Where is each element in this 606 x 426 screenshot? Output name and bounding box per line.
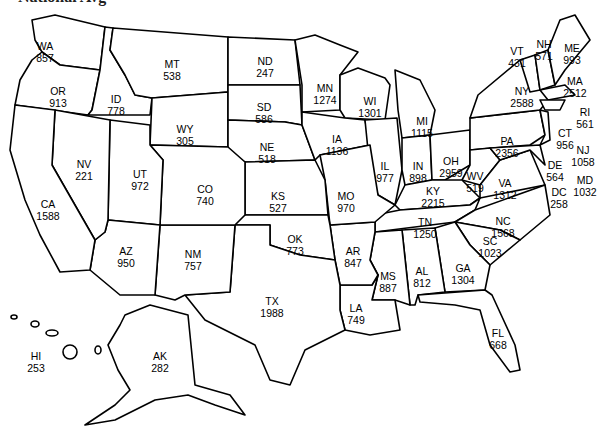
- state-abbr: KY: [421, 185, 444, 197]
- state-abbr: FL: [489, 327, 507, 339]
- state-ct[interactable]: [540, 100, 565, 110]
- state-value: 993: [563, 54, 581, 66]
- state-value: 740: [196, 195, 214, 207]
- state-abbr: MI: [411, 115, 433, 127]
- state-value: 538: [163, 70, 181, 82]
- state-value: 253: [27, 362, 45, 374]
- state-abbr: HI: [27, 350, 45, 362]
- state-label-wi: WI1301: [358, 95, 381, 119]
- state-value: 2588: [510, 97, 533, 109]
- state-abbr: UT: [131, 168, 149, 180]
- state-value: 2215: [421, 197, 444, 209]
- state-label-mo: MO970: [337, 190, 355, 214]
- state-abbr: OR: [49, 85, 67, 97]
- state-label-ks: KS527: [269, 190, 287, 214]
- state-abbr: WA: [36, 40, 54, 52]
- state-label-id: ID778: [107, 93, 125, 117]
- state-value: 812: [413, 277, 431, 289]
- state-label-nd: ND247: [256, 55, 274, 79]
- state-abbr: MS: [379, 270, 397, 282]
- state-label-il: IL977: [376, 160, 394, 184]
- state-label-ri: RI561: [576, 106, 594, 130]
- state-label-oh: OH2959: [439, 155, 462, 179]
- state-label-me: ME993: [563, 42, 581, 66]
- state-value: 1312: [493, 189, 516, 201]
- state-label-ia: IA1136: [326, 133, 349, 157]
- state-abbr: AL: [413, 265, 431, 277]
- state-value: 749: [347, 314, 365, 326]
- state-abbr: ND: [256, 55, 274, 67]
- state-label-al: AL812: [413, 265, 431, 289]
- state-abbr: MO: [337, 190, 355, 202]
- state-label-co: CO740: [196, 183, 214, 207]
- state-abbr: NE: [258, 141, 276, 153]
- state-label-va: VA1312: [493, 177, 516, 201]
- state-abbr: GA: [451, 262, 474, 274]
- state-value: 1988: [260, 307, 283, 319]
- state-abbr: CA: [36, 198, 59, 210]
- state-label-ga: GA1304: [451, 262, 474, 286]
- state-value: 527: [269, 202, 287, 214]
- state-value: 2959: [439, 167, 462, 179]
- state-label-mt: MT538: [163, 58, 181, 82]
- state-label-mi: MI1115: [411, 115, 433, 139]
- state-label-tn: TN1250: [413, 216, 436, 240]
- state-abbr: WV: [466, 170, 484, 182]
- state-abbr: VA: [493, 177, 516, 189]
- state-abbr: AR: [344, 245, 362, 257]
- state-label-ms: MS887: [379, 270, 397, 294]
- state-label-ky: KY2215: [421, 185, 444, 209]
- state-value: 887: [379, 282, 397, 294]
- state-value: 898: [409, 172, 427, 184]
- state-abbr: SC: [478, 235, 501, 247]
- state-abbr: KS: [269, 190, 287, 202]
- state-abbr: IL: [376, 160, 394, 172]
- state-value: 1023: [478, 247, 501, 259]
- state-value: 1250: [413, 228, 436, 240]
- state-abbr: NH: [535, 38, 553, 50]
- state-value: 1301: [358, 107, 381, 119]
- state-value: 258: [550, 198, 568, 210]
- state-abbr: SD: [255, 101, 273, 113]
- state-abbr: TX: [260, 295, 283, 307]
- state-abbr: ID: [107, 93, 125, 105]
- state-label-mn: MN1274: [313, 82, 336, 106]
- state-value: 1115: [411, 127, 433, 139]
- state-label-tx: TX1988: [260, 295, 283, 319]
- state-value: 518: [258, 153, 276, 165]
- state-label-vt: VT431: [508, 45, 526, 69]
- state-label-or: OR913: [49, 85, 67, 109]
- state-label-ak: AK282: [151, 350, 169, 374]
- state-value: 773: [286, 245, 304, 257]
- state-label-la: LA749: [347, 302, 365, 326]
- state-abbr: ME: [563, 42, 581, 54]
- state-label-ok: OK773: [286, 233, 304, 257]
- state-value: 564: [546, 171, 564, 183]
- state-label-wv: WV519: [466, 170, 484, 194]
- state-abbr: NV: [75, 158, 93, 170]
- state-abbr: DE: [546, 159, 564, 171]
- state-value: 847: [344, 257, 362, 269]
- state-label-sc: SC1023: [478, 235, 501, 259]
- state-value: 913: [49, 97, 67, 109]
- state-label-sd: SD586: [255, 101, 273, 125]
- state-abbr: OH: [439, 155, 462, 167]
- state-label-nh: NH571: [535, 38, 553, 62]
- state-abbr: CT: [556, 127, 574, 139]
- state-label-ar: AR847: [344, 245, 362, 269]
- state-hi[interactable]: [11, 315, 101, 359]
- state-label-de: DE564: [546, 159, 564, 183]
- state-value: 668: [489, 339, 507, 351]
- state-abbr: WY: [176, 123, 194, 135]
- state-label-fl: FL668: [489, 327, 507, 351]
- state-value: 1274: [313, 94, 336, 106]
- state-label-wy: WY305: [176, 123, 194, 147]
- state-value: 561: [576, 118, 594, 130]
- state-value: 431: [508, 57, 526, 69]
- state-value: 778: [107, 105, 125, 117]
- state-abbr: RI: [576, 106, 594, 118]
- state-abbr: VT: [508, 45, 526, 57]
- state-label-ny: NY2588: [510, 85, 533, 109]
- state-abbr: AK: [151, 350, 169, 362]
- state-abbr: IA: [326, 133, 349, 145]
